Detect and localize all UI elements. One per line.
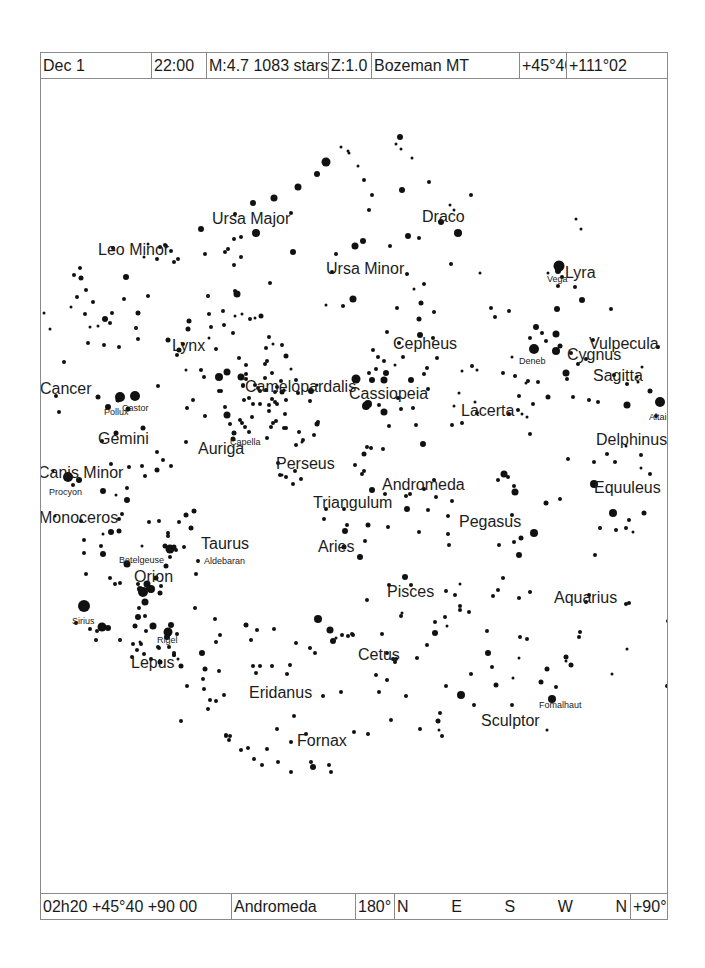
- star: [250, 200, 256, 206]
- star: [352, 243, 359, 250]
- star: [99, 544, 103, 548]
- star: [232, 431, 237, 436]
- star: [143, 614, 147, 618]
- constellation-label: Ursa Major: [212, 211, 290, 227]
- star: [417, 317, 422, 322]
- star: [234, 315, 237, 318]
- star: [476, 369, 479, 372]
- star: [239, 255, 243, 259]
- azimuth-field[interactable]: 180°: [356, 894, 395, 919]
- star: [275, 727, 279, 731]
- star: [632, 531, 635, 534]
- star: [108, 321, 112, 325]
- date-field[interactable]: Dec 1: [41, 53, 152, 78]
- star: [593, 553, 597, 557]
- star: [252, 229, 260, 237]
- star: [453, 593, 457, 597]
- compass-strip[interactable]: N E S W N: [395, 894, 631, 919]
- constellation-label: Pisces: [387, 584, 434, 600]
- star: [271, 195, 278, 202]
- star: [665, 684, 667, 688]
- star: [377, 403, 381, 407]
- star: [450, 423, 454, 427]
- star: [536, 380, 540, 384]
- star-name-label: Aldebaran: [204, 557, 245, 566]
- star: [528, 432, 532, 436]
- star: [283, 412, 287, 416]
- star: [325, 304, 328, 307]
- star: [400, 148, 403, 151]
- zoom-field[interactable]: Z:1.0: [329, 53, 372, 78]
- center-coordinates[interactable]: 02h20 +45°40 +90 00: [41, 894, 232, 919]
- star: [666, 619, 667, 623]
- center-constellation[interactable]: Andromeda: [232, 894, 356, 919]
- star: [198, 226, 204, 232]
- constellation-label: Cancer: [41, 381, 92, 397]
- star: [100, 488, 106, 494]
- star: [139, 642, 143, 646]
- star: [434, 495, 438, 499]
- latitude-field[interactable]: +45°40: [520, 53, 567, 78]
- star: [72, 273, 76, 277]
- star: [404, 494, 408, 498]
- star: [563, 370, 570, 377]
- longitude-field[interactable]: +111°02: [567, 53, 667, 78]
- star: [223, 250, 227, 254]
- constellation-label: Cetus: [358, 647, 400, 663]
- star: [284, 475, 288, 479]
- star: [239, 748, 243, 752]
- star: [83, 312, 87, 316]
- star-name-label: Betelgeuse: [119, 556, 164, 565]
- star: [147, 585, 155, 593]
- star: [133, 624, 138, 629]
- star: [276, 760, 280, 764]
- time-field[interactable]: 22:00: [152, 53, 207, 78]
- star: [137, 606, 141, 610]
- star: [624, 402, 631, 409]
- star: [249, 638, 253, 642]
- star: [513, 374, 517, 378]
- star-map[interactable]: Ursa MajorDracoLeo MinorUrsa MinorLyraLy…: [41, 79, 667, 893]
- star: [367, 371, 371, 375]
- star: [265, 747, 269, 751]
- star: [518, 657, 521, 660]
- star: [573, 285, 577, 289]
- star: [438, 711, 442, 715]
- star: [264, 346, 268, 350]
- star: [327, 763, 331, 767]
- star: [209, 325, 213, 329]
- magnitude-star-count[interactable]: M:4.7 1083 stars: [207, 53, 329, 78]
- star: [496, 478, 500, 482]
- star: [648, 389, 653, 394]
- star: [57, 410, 61, 414]
- star: [404, 694, 408, 698]
- star: [270, 371, 274, 375]
- star: [371, 348, 375, 352]
- star-name-label: Pollux: [104, 408, 129, 417]
- altitude-field[interactable]: +90°: [631, 894, 667, 919]
- star: [113, 582, 117, 586]
- star: [566, 457, 570, 461]
- star: [335, 637, 338, 640]
- star: [496, 588, 500, 592]
- star: [362, 178, 366, 182]
- star: [627, 518, 631, 522]
- star: [227, 738, 231, 742]
- star: [182, 545, 186, 549]
- star: [512, 540, 516, 544]
- star: [82, 551, 86, 555]
- star: [130, 391, 140, 401]
- star: [290, 368, 293, 371]
- star: [166, 531, 170, 535]
- star: [272, 627, 276, 631]
- star: [115, 392, 125, 402]
- star-field: [41, 79, 667, 893]
- star: [246, 746, 250, 750]
- star: [408, 377, 414, 383]
- star: [399, 187, 405, 193]
- star: [150, 623, 157, 630]
- location-field[interactable]: Bozeman MT: [372, 53, 520, 78]
- star: [267, 335, 271, 339]
- constellation-label: Lyra: [565, 265, 596, 281]
- star: [284, 398, 288, 402]
